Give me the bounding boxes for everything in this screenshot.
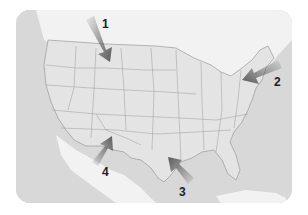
arrow-1-label: 1	[102, 17, 109, 31]
arrow-4-label: 4	[102, 165, 109, 179]
arrow-2-label: 2	[274, 75, 281, 89]
map-frame: 1 2 3 4	[16, 10, 292, 203]
arrow-3-label: 3	[179, 185, 186, 199]
us-map: 1 2 3 4	[16, 10, 292, 203]
